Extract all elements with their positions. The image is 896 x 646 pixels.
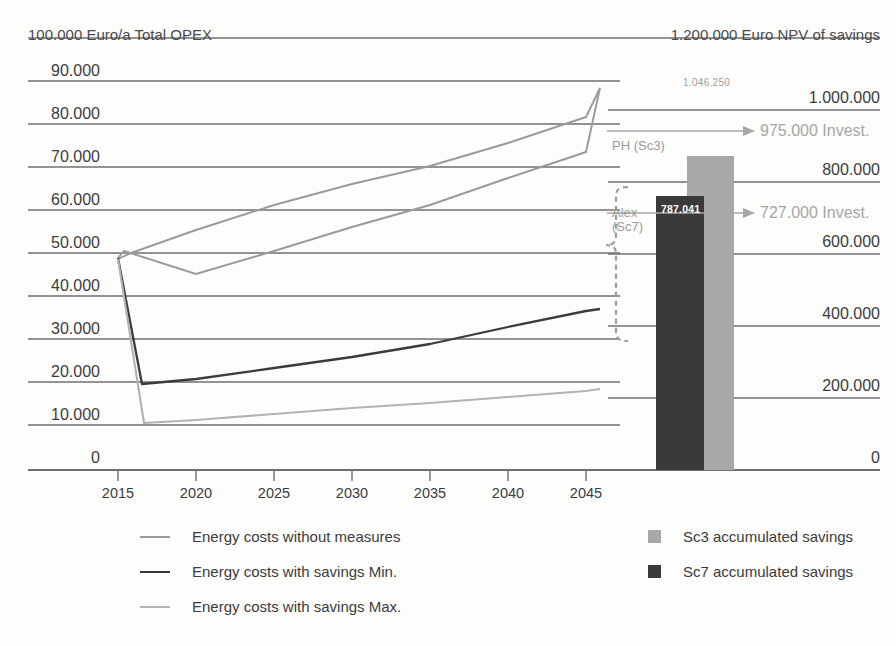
left-axis-tick-40000: 40.000 xyxy=(12,277,100,295)
left-axis-tick-50000: 50.000 xyxy=(12,234,100,252)
legend-swatch-line-icon xyxy=(140,536,170,538)
legend-swatch-line-icon xyxy=(140,606,170,608)
legend-swatch-square-icon xyxy=(648,565,661,578)
annotation-alex-sc7-line2: (Sc7) xyxy=(612,220,643,233)
left-axis-title: 100.000 Euro/a Total OPEX xyxy=(28,26,212,43)
invest-sc3-label: 975.000 Invest. xyxy=(760,122,869,140)
right-axis-tick-200000: 200.000 xyxy=(748,377,880,395)
legend-item-sc7-savings[interactable]: Sc7 accumulated savings xyxy=(648,563,853,580)
left-axis-tick-70000: 70.000 xyxy=(12,148,100,166)
right-axis-tick-1000000: 1.000.000 xyxy=(748,89,880,107)
legend-swatch-line-icon xyxy=(140,571,170,573)
chart-canvas: 100.000 Euro/a Total OPEX 1.200.000 Euro… xyxy=(0,0,896,646)
left-axis-tick-60000: 60.000 xyxy=(12,191,100,209)
left-gridlines xyxy=(28,81,620,425)
x-axis-tick-2045: 2045 xyxy=(550,485,622,501)
right-axis-tick-0: 0 xyxy=(748,449,880,467)
arrow-sc3 xyxy=(743,126,755,136)
left-axis-tick-10000: 10.000 xyxy=(12,406,100,424)
legend-label-sc3-savings: Sc3 accumulated savings xyxy=(683,528,853,545)
annotation-alex-sc7-line1: Alex xyxy=(612,206,637,219)
legend-label-savings-min: Energy costs with savings Min. xyxy=(192,563,397,580)
legend-swatch-square-icon xyxy=(648,530,661,543)
bar-sc3-value-label: 1.046.250 xyxy=(683,77,730,88)
legend-label-sc7-savings: Sc7 accumulated savings xyxy=(683,563,853,580)
left-axis-tick-20000: 20.000 xyxy=(12,363,100,381)
x-axis-tick-2025: 2025 xyxy=(238,485,310,501)
legend-item-savings-min[interactable]: Energy costs with savings Min. xyxy=(140,563,397,580)
x-axis-tick-2015: 2015 xyxy=(82,485,154,501)
right-axis-tick-400000: 400.000 xyxy=(748,305,880,323)
bar-sc7 xyxy=(656,234,704,470)
legend-item-without-measures[interactable]: Energy costs without measures xyxy=(140,528,400,545)
x-axis-tick-2030: 2030 xyxy=(316,485,388,501)
right-gridlines xyxy=(608,110,880,398)
legend-label-savings-max: Energy costs with savings Max. xyxy=(192,598,401,615)
legend-item-savings-max[interactable]: Energy costs with savings Max. xyxy=(140,598,401,615)
annotation-ph-sc3: PH (Sc3) xyxy=(612,139,665,152)
left-axis-tick-30000: 30.000 xyxy=(12,320,100,338)
legend-item-sc3-savings[interactable]: Sc3 accumulated savings xyxy=(648,528,853,545)
series-savings-max xyxy=(118,259,600,423)
right-axis-tick-600000: 600.000 xyxy=(748,233,880,251)
left-axis-tick-90000: 90.000 xyxy=(12,62,100,80)
x-axis-ticks xyxy=(118,470,586,481)
legend-label-without-measures: Energy costs without measures xyxy=(192,528,400,545)
bar-sc7-value-plaque xyxy=(656,196,704,234)
left-axis-tick-80000: 80.000 xyxy=(12,105,100,123)
x-axis-tick-2020: 2020 xyxy=(160,485,232,501)
right-axis-title: 1.200.000 Euro NPV of savings xyxy=(671,26,880,43)
x-axis-tick-2035: 2035 xyxy=(394,485,466,501)
invest-sc7-label: 727.000 Invest. xyxy=(760,204,869,222)
left-axis-tick-0: 0 xyxy=(12,449,100,467)
bar-sc7-value-label: 787.041 xyxy=(661,203,700,215)
series-savings-min xyxy=(118,258,600,384)
series-without-measures-main xyxy=(118,88,600,259)
arrow-sc7 xyxy=(743,208,755,218)
right-axis-tick-800000: 800.000 xyxy=(748,161,880,179)
x-axis-tick-2040: 2040 xyxy=(472,485,544,501)
series-without-measures xyxy=(118,88,600,274)
